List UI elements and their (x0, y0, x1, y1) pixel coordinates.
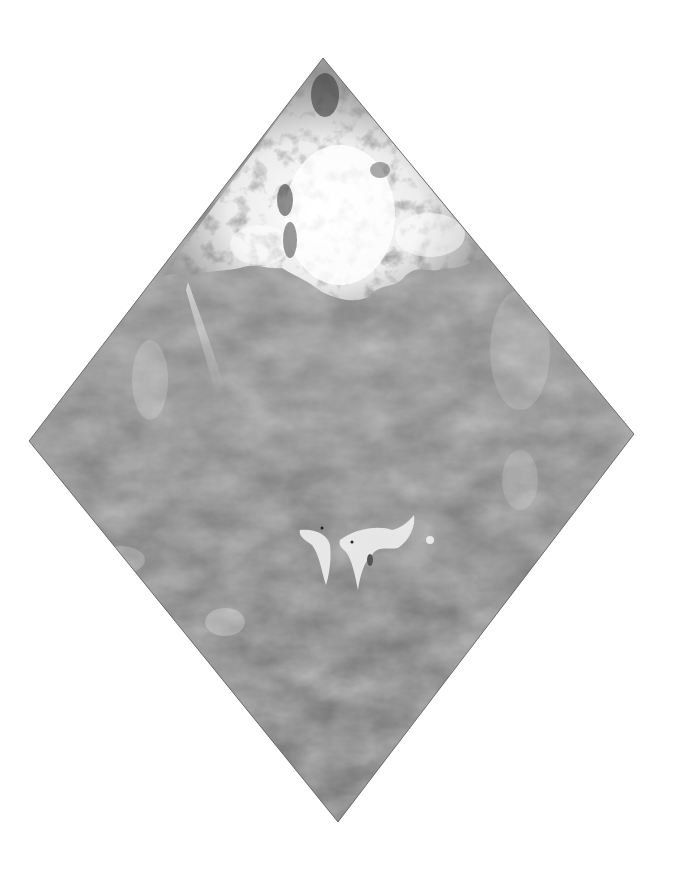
diamond-watercolor (0, 0, 682, 871)
artwork-canvas (0, 0, 682, 871)
